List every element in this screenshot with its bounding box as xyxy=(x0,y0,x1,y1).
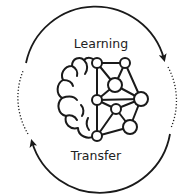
node xyxy=(120,58,130,68)
learning-transfer-diagram: Learning Transfer xyxy=(0,0,189,195)
transfer-label: Transfer xyxy=(70,148,122,163)
learning-label: Learning xyxy=(74,36,128,51)
bottom-arc-arrow xyxy=(32,134,170,193)
brain-fold xyxy=(81,105,83,116)
node xyxy=(111,104,121,114)
node xyxy=(134,92,148,106)
brain-fold xyxy=(87,118,89,130)
brain-fold xyxy=(72,66,77,76)
node xyxy=(92,131,102,141)
node xyxy=(92,95,102,105)
brain-fold xyxy=(84,60,87,74)
brain-fold xyxy=(63,80,73,86)
brain-network-icon xyxy=(58,58,148,141)
brain-fold xyxy=(66,115,77,120)
right-dotted-arc xyxy=(168,67,176,128)
top-arc-arrow xyxy=(26,7,164,63)
node xyxy=(92,58,102,68)
brain-fold xyxy=(62,97,77,100)
left-dotted-arc xyxy=(18,71,28,134)
node xyxy=(123,120,137,134)
node xyxy=(108,78,122,92)
